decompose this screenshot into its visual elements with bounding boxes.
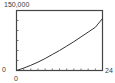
- graph-plot: [0, 0, 115, 83]
- plot-frame: [17, 11, 103, 71]
- data-curve: [17, 19, 103, 71]
- axis-ticks: [17, 21, 96, 71]
